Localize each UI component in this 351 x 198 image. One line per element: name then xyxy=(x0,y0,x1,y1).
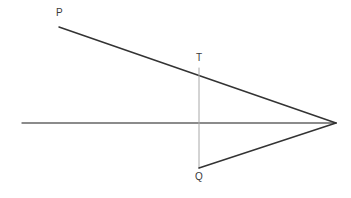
upper-ray-p-to-focus xyxy=(59,27,336,123)
ray-diagram-svg xyxy=(0,0,351,198)
lower-ray-q-to-focus xyxy=(199,123,336,168)
diagram-canvas: P T Q xyxy=(0,0,351,198)
point-label-t: T xyxy=(196,53,202,63)
point-label-p: P xyxy=(56,8,63,18)
point-label-q: Q xyxy=(195,172,203,182)
